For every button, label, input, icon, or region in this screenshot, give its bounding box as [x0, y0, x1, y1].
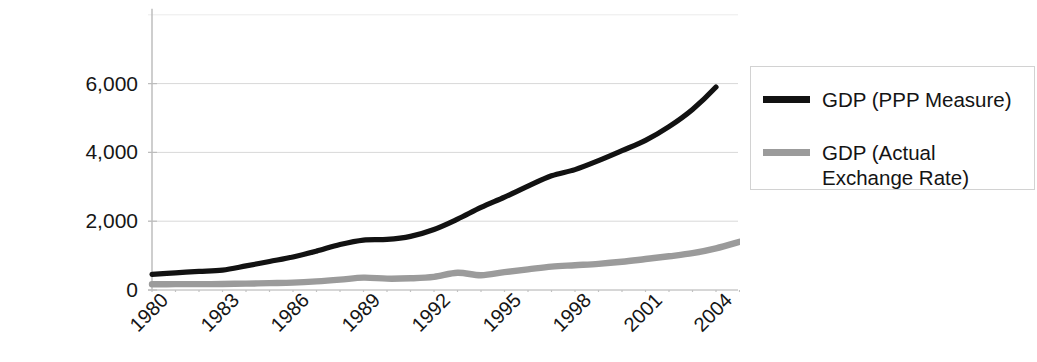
- x-tick-label-1989: 1989: [337, 289, 383, 335]
- x-tick-label-1986: 1986: [267, 289, 313, 335]
- x-tick-label-2004: 2004: [690, 289, 736, 335]
- x-tick-label-1983: 1983: [196, 289, 242, 335]
- x-tick-label-1980: 1980: [126, 289, 172, 335]
- legend-label-actual-exchange-rate: GDP (Actual Exchange Rate): [822, 140, 1031, 190]
- x-tick-label-1995: 1995: [478, 289, 524, 335]
- legend-swatch-ppp: [763, 96, 810, 103]
- legend-label-ppp: GDP (PPP Measure): [822, 87, 1012, 112]
- legend-item-actual-exchange-rate: GDP (Actual Exchange Rate): [763, 140, 1031, 190]
- x-tick-label-1998: 1998: [549, 289, 595, 335]
- legend-item-ppp: GDP (PPP Measure): [763, 87, 1031, 112]
- x-tick-label-1992: 1992: [408, 289, 454, 335]
- gdp-line-chart: US$ Billion 02,0004,0006,000 19801983198…: [0, 0, 1037, 362]
- chart-legend: GDP (PPP Measure) GDP (Actual Exchange R…: [750, 66, 1035, 190]
- x-tick-label-2001: 2001: [619, 289, 665, 335]
- legend-swatch-actual-exchange-rate: [763, 149, 810, 156]
